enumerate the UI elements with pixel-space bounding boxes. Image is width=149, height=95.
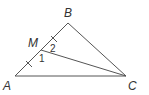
label-m: M: [28, 36, 38, 50]
label-b: B: [64, 6, 72, 20]
label-c: C: [128, 79, 137, 93]
angle-2-label: 2: [50, 43, 56, 54]
segment-bc: [68, 23, 126, 76]
label-a: A: [2, 79, 11, 93]
segment-ab: [15, 23, 68, 76]
triangle-diagram: A B C M 2 1: [0, 0, 149, 95]
angle-1-label: 1: [39, 53, 45, 64]
diagram-canvas: A B C M 2 1: [0, 0, 149, 95]
